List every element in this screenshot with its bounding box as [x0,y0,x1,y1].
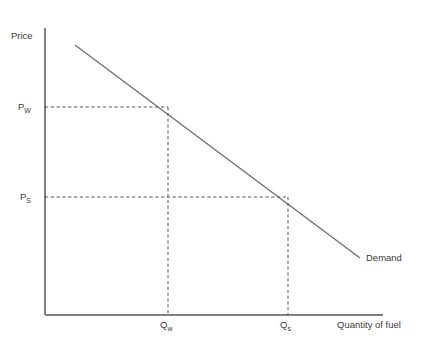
ps-tick-label: PS [20,192,31,204]
qw-tick-label: Qw [160,320,172,332]
y-axis-title: Price [11,31,33,41]
diagram-canvas: Price PW PS Qw Qs Quantity of fuel Deman… [0,0,431,355]
qs-tick-subscript: s [287,325,291,332]
demand-curve [75,45,360,258]
qw-tick-subscript: w [167,325,172,332]
qs-tick-label: Qs [280,320,291,332]
pw-tick-subscript: W [24,107,31,114]
ps-tick-subscript: S [26,197,31,204]
demand-curve-label: Demand [366,253,402,263]
pw-tick-label: PW [18,102,31,114]
demand-curve-chart [0,0,431,355]
x-axis-title: Quantity of fuel [337,320,401,330]
